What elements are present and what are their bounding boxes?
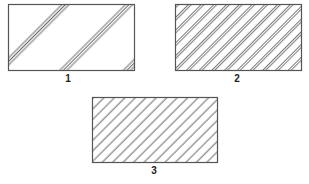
hatched-rectangle-2 <box>176 5 302 71</box>
panel-label-3: 3 <box>144 166 164 176</box>
panel-label-2: 2 <box>227 74 247 84</box>
hatch-patterns-figure <box>0 0 309 184</box>
panel-2 <box>176 5 302 71</box>
hatched-rectangle-3 <box>93 98 218 163</box>
panel-1 <box>9 5 135 71</box>
hatched-rectangle-1 <box>9 5 135 71</box>
panel-label-1: 1 <box>58 74 78 84</box>
panel-3 <box>93 98 218 163</box>
